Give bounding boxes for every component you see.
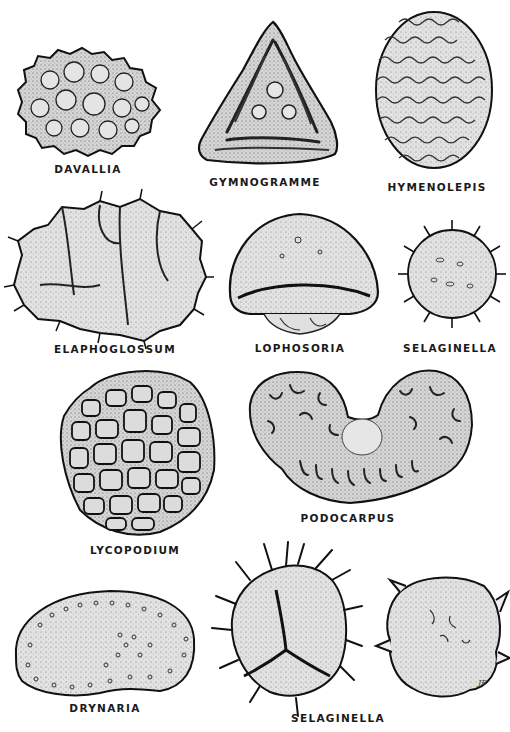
label-selaginella-1: SELAGINELLA [403, 342, 497, 354]
label-hymenolepis: HYMENOLEPIS [387, 181, 486, 193]
specimen-lophosoria: LOPHOSORIA [210, 200, 390, 350]
podocarpus-pollen-illustration [240, 365, 500, 535]
davallia-spore-illustration [0, 0, 170, 180]
specimen-elaphoglossum: ELAPHOGLOSSUM [0, 185, 215, 345]
label-lophosoria: LOPHOSORIA [255, 342, 345, 354]
label-davallia: DAVALLIA [54, 163, 121, 175]
specimen-davallia: DAVALLIA [0, 0, 170, 180]
label-elaphoglossum: ELAPHOGLOSSUM [54, 343, 176, 355]
artist-signature: JF [478, 678, 487, 687]
hymenolepis-spore-illustration [355, 0, 510, 200]
gymnogramme-spore-illustration [185, 0, 345, 200]
selaginella-spiny-spore-illustration [200, 540, 510, 732]
lycopodium-spore-illustration [50, 360, 230, 560]
label-podocarpus: PODOCARPUS [301, 512, 396, 524]
elaphoglossum-spore-illustration [0, 185, 215, 345]
label-drynaria: DRYNARIA [69, 702, 140, 714]
specimen-selaginella-2: SELAGINELLA JF [200, 540, 510, 732]
specimen-selaginella-1: SELAGINELLA [390, 200, 510, 350]
specimen-hymenolepis: HYMENOLEPIS [355, 0, 510, 200]
label-lycopodium: LYCOPODIUM [90, 544, 180, 556]
specimen-podocarpus: PODOCARPUS [240, 365, 500, 535]
specimen-gymnogramme: GYMNOGRAMME [185, 0, 345, 200]
specimen-drynaria: DRYNARIA [0, 585, 210, 725]
label-gymnogramme: GYMNOGRAMME [209, 176, 320, 188]
label-selaginella-2: SELAGINELLA [291, 712, 385, 724]
lophosoria-spore-illustration [210, 200, 390, 350]
specimen-lycopodium: LYCOPODIUM [50, 360, 230, 560]
selaginella-echinate-spore-illustration [390, 200, 510, 350]
